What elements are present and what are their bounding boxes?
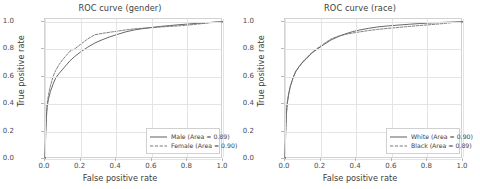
- legend-gender: Male (Area = 0.89) Female (Area = 0.90): [146, 128, 220, 154]
- y-tick-mark: [281, 76, 284, 77]
- y-tick-mark: [281, 131, 284, 132]
- legend-item: Black (Area = 0.89): [390, 141, 455, 150]
- x-axis-label: False positive rate: [240, 173, 480, 183]
- legend-race: White (Area = 0.90) Black (Area = 0.89): [386, 128, 460, 154]
- y-tick-label: 0.4: [224, 99, 254, 107]
- legend-item: White (Area = 0.90): [390, 132, 455, 141]
- y-tick-mark: [281, 48, 284, 49]
- y-tick-mark: [281, 21, 284, 22]
- y-tick-mark: [41, 158, 44, 159]
- y-tick-label: 0.6: [0, 72, 14, 80]
- x-tick-label: 0.8: [171, 162, 201, 170]
- y-tick-mark: [41, 103, 44, 104]
- gridline-horizontal: [45, 159, 221, 160]
- y-tick-mark: [281, 158, 284, 159]
- gridline-horizontal: [285, 104, 461, 105]
- y-tick-label: 0.0: [224, 154, 254, 162]
- gridline-horizontal: [45, 22, 221, 23]
- x-tick-mark: [115, 158, 116, 161]
- roc-figure: ROC curve (gender) True positive rate Fa…: [0, 0, 480, 189]
- gridline-vertical: [45, 19, 46, 157]
- y-tick-label: 0.4: [0, 99, 14, 107]
- y-axis-label: True positive rate: [256, 6, 266, 136]
- legend-label: Female (Area = 0.90): [171, 142, 237, 149]
- panel-gender: ROC curve (gender) True positive rate Fa…: [0, 0, 240, 189]
- x-tick-label: 1.0: [207, 162, 237, 170]
- y-tick-label: 0.2: [0, 127, 14, 135]
- gridline-vertical: [321, 19, 322, 157]
- gridline-horizontal: [45, 49, 221, 50]
- y-axis-label: True positive rate: [16, 6, 26, 136]
- x-axis-label: False positive rate: [0, 173, 240, 183]
- gridline-horizontal: [285, 22, 461, 23]
- y-tick-label: 0.6: [224, 72, 254, 80]
- legend-swatch-solid: [390, 133, 407, 141]
- x-tick-mark: [462, 158, 463, 161]
- panel-title: ROC curve (race): [240, 3, 480, 13]
- legend-swatch-dashed: [150, 142, 167, 150]
- x-tick-label: 0.8: [411, 162, 441, 170]
- x-tick-mark: [222, 158, 223, 161]
- x-tick-mark: [80, 158, 81, 161]
- x-tick-label: 0.2: [305, 162, 335, 170]
- x-tick-mark: [426, 158, 427, 161]
- legend-item: Male (Area = 0.89): [150, 132, 215, 141]
- x-tick-label: 0.0: [269, 162, 299, 170]
- x-tick-label: 0.4: [100, 162, 130, 170]
- gridline-vertical: [116, 19, 117, 157]
- y-tick-mark: [41, 131, 44, 132]
- gridline-vertical: [81, 19, 82, 157]
- panel-title: ROC curve (gender): [0, 3, 240, 13]
- x-tick-mark: [44, 158, 45, 161]
- x-tick-label: 0.6: [376, 162, 406, 170]
- y-tick-mark: [281, 103, 284, 104]
- x-tick-mark: [284, 158, 285, 161]
- legend-label: White (Area = 0.90): [411, 133, 473, 140]
- y-tick-mark: [41, 48, 44, 49]
- y-tick-mark: [41, 21, 44, 22]
- gridline-horizontal: [45, 77, 221, 78]
- x-tick-label: 0.4: [340, 162, 370, 170]
- panel-race: ROC curve (race) True positive rate Fals…: [240, 0, 480, 189]
- x-tick-mark: [151, 158, 152, 161]
- x-tick-mark: [186, 158, 187, 161]
- y-tick-label: 0.2: [224, 127, 254, 135]
- y-tick-label: 0.0: [0, 154, 14, 162]
- x-tick-mark: [355, 158, 356, 161]
- y-tick-mark: [41, 76, 44, 77]
- legend-label: Male (Area = 0.89): [171, 133, 230, 140]
- legend-swatch-dashed: [390, 142, 407, 150]
- legend-item: Female (Area = 0.90): [150, 141, 215, 150]
- y-tick-label: 0.8: [0, 44, 14, 52]
- x-tick-label: 0.6: [136, 162, 166, 170]
- gridline-horizontal: [285, 77, 461, 78]
- legend-swatch-solid: [150, 133, 167, 141]
- gridline-horizontal: [285, 49, 461, 50]
- x-tick-label: 1.0: [447, 162, 477, 170]
- gridline-horizontal: [285, 159, 461, 160]
- x-tick-label: 0.2: [65, 162, 95, 170]
- y-tick-label: 0.8: [224, 44, 254, 52]
- y-tick-label: 1.0: [224, 17, 254, 25]
- x-tick-mark: [320, 158, 321, 161]
- y-tick-label: 1.0: [0, 17, 14, 25]
- gridline-vertical: [285, 19, 286, 157]
- x-tick-label: 0.0: [29, 162, 59, 170]
- gridline-vertical: [356, 19, 357, 157]
- x-tick-mark: [391, 158, 392, 161]
- legend-label: Black (Area = 0.89): [411, 142, 472, 149]
- gridline-horizontal: [45, 104, 221, 105]
